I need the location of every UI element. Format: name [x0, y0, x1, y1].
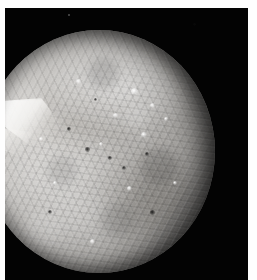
bright-crater-spot	[99, 142, 103, 146]
photograph-plate	[5, 8, 248, 280]
image-page: Miranda	[0, 0, 257, 280]
bright-crater-spot	[113, 113, 118, 118]
bright-crater-spot	[39, 137, 43, 141]
dark-crater-spot	[48, 210, 52, 214]
moon-disc-wrapper	[5, 30, 215, 273]
sky-speck	[68, 14, 70, 16]
bright-crater-spot	[127, 186, 132, 191]
dark-crater-spot	[85, 147, 90, 152]
bright-crater-spot	[90, 239, 95, 244]
dark-crater-spot	[150, 210, 155, 215]
dark-crater-spot	[67, 127, 71, 131]
bright-crater-spot	[150, 103, 155, 108]
dark-crater-spot	[145, 152, 149, 156]
bright-crater-spot	[141, 132, 147, 138]
bright-crater-spot	[173, 181, 177, 185]
southern-bright-region	[20, 195, 141, 268]
bright-crater-spot	[76, 79, 81, 84]
miranda-disc	[5, 30, 215, 273]
bright-crater-spot	[53, 181, 57, 185]
